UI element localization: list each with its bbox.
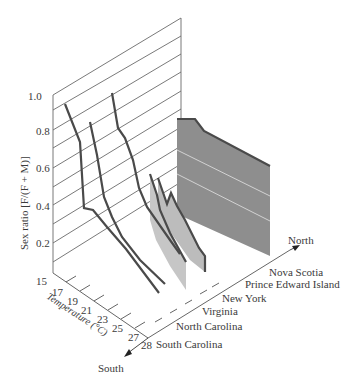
location-prince-edward-island: Prince Edward Island — [245, 278, 340, 290]
south-label: South — [98, 362, 124, 374]
y-axis-ticks: 1.0 0.8 0.6 0.4 0.2 — [28, 90, 50, 249]
location-north-carolina: North Carolina — [176, 320, 242, 332]
location-nova-scotia: Nova Scotia — [269, 266, 323, 278]
x-tick-27: 27 — [128, 331, 140, 343]
y-tick-1.0: 1.0 — [28, 90, 42, 102]
y-tick-0.4: 0.4 — [36, 200, 50, 212]
location-south-carolina: South Carolina — [156, 338, 222, 350]
location-virginia: Virginia — [202, 305, 238, 317]
y-tick-0.2: 0.2 — [36, 237, 50, 249]
x-tick-15: 15 — [36, 275, 48, 287]
y-axis-title: Sex ratio [F/(F + M)] — [18, 156, 31, 250]
x-axis-ticks: 15 17 19 21 23 25 27 28 — [36, 275, 153, 351]
north-label: North — [288, 234, 314, 246]
x-tick-25: 25 — [112, 322, 124, 334]
location-new-york: New York — [222, 292, 267, 304]
sex-ratio-3d-chart: 1.0 0.8 0.6 0.4 0.2 Sex ratio [F/(F + M)… — [0, 0, 364, 382]
x-tick-28: 28 — [141, 339, 153, 351]
y-tick-0.8: 0.8 — [36, 125, 50, 137]
y-tick-0.6: 0.6 — [36, 162, 50, 174]
